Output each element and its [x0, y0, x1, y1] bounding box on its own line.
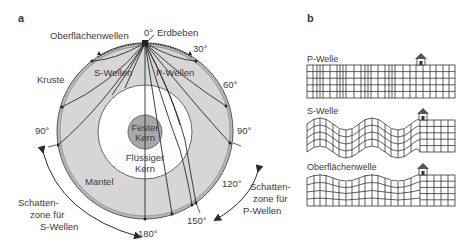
row-label-s-wave: S-Welle [307, 106, 338, 116]
label-shadow-p-2: zone für [253, 193, 287, 204]
surface-wave-grid [307, 174, 455, 206]
label-solid-core-2: Kern [135, 132, 155, 143]
angle-60: 60° [223, 79, 238, 90]
tick-90-left [48, 145, 56, 147]
wave-panels: P-Welle S-Welle [307, 53, 455, 206]
label-mantle: Mantel [85, 176, 114, 187]
angle-180: 180° [138, 228, 158, 239]
label-surface-waves: Oberflächenwellen [50, 30, 129, 41]
angle-90-left: 90° [35, 125, 50, 136]
p-wave-grid [307, 65, 455, 98]
label-p-waves: P-Wellen [156, 67, 194, 78]
earthquake-focus [142, 40, 148, 46]
label-earthquake: Erdbeben [157, 27, 198, 38]
angle-90-right: 90° [237, 125, 252, 136]
panel-a-letter: a [18, 12, 25, 24]
tick-150 [196, 203, 200, 213]
station-triangle-left [97, 51, 101, 55]
angle-120: 120° [222, 178, 242, 189]
label-crust: Kruste [37, 74, 64, 85]
angle-30: 30° [193, 43, 208, 54]
row-label-surface-wave: Oberflächenwelle [307, 162, 377, 172]
label-shadow-p-3: P-Wellen [243, 205, 281, 216]
house-icon [417, 108, 429, 120]
s-wave-grid [307, 118, 455, 158]
angle-0: 0° [144, 27, 153, 38]
label-s-waves: S-Wellen [94, 67, 132, 78]
house-icon [415, 53, 427, 65]
tick-90-right [233, 143, 241, 146]
panel-b-letter: b [307, 12, 314, 24]
row-label-p-wave: P-Welle [307, 54, 338, 64]
label-liquid-core-1: Flüssiger [126, 152, 165, 163]
seismic-wave-diagram: a b [0, 0, 475, 252]
angle-150: 150° [187, 215, 207, 226]
label-shadow-s-3: S-Wellen [40, 221, 78, 232]
label-shadow-p-1: Schatten- [250, 181, 291, 192]
label-shadow-s-1: Schatten- [18, 197, 59, 208]
house-icon [417, 163, 429, 175]
label-liquid-core-2: Kern [135, 163, 155, 174]
label-shadow-s-2: zone für [30, 209, 64, 220]
station-triangle-right [188, 51, 192, 55]
